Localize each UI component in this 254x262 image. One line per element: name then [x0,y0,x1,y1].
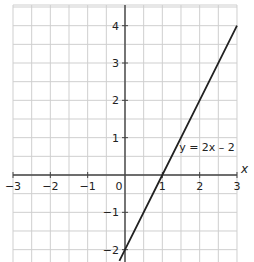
x-tick-label: 1 [159,180,166,193]
y-tick-label: −2 [103,244,119,257]
tick-labels: −3−2−10123−2−11234 [5,20,241,257]
x-tick-label: 2 [196,180,203,193]
equation-label: y = 2x – 2 [179,141,235,154]
y-tick-label: 4 [112,20,119,33]
y-tick-label: 3 [112,57,119,70]
x-tick-label: −2 [42,180,58,193]
y-tick-label: 1 [112,132,119,145]
x-tick-label: 3 [233,180,240,193]
y-tick-label: −1 [103,206,119,219]
x-tick-label: 0 [116,180,123,193]
axes [13,5,237,262]
line-chart: −3−2−10123−2−11234 y = 2x – 2 x [0,0,254,262]
x-axis-label: x [240,162,249,176]
x-tick-label: −3 [5,180,21,193]
x-tick-label: −1 [80,180,96,193]
y-tick-label: 2 [112,94,119,107]
